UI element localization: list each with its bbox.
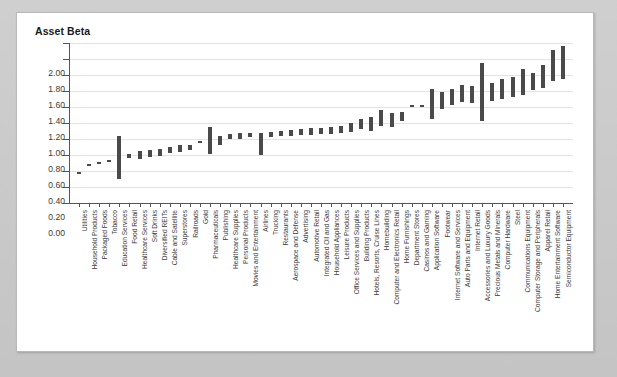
range-bar[interactable]: [248, 133, 252, 138]
x-axis-tick: [523, 203, 524, 207]
y-axis-tick-label: 1.60: [21, 100, 65, 110]
x-axis-tick-label: Application Software: [434, 210, 441, 270]
gridline: [69, 171, 573, 172]
y-axis-tick-label: 1.20: [21, 132, 65, 142]
range-bar[interactable]: [138, 151, 142, 159]
x-axis-tick: [180, 203, 181, 207]
x-axis-tick: [160, 203, 161, 207]
x-axis-tick: [392, 203, 393, 207]
x-axis-tick-label: Semiconductor Equipment: [566, 210, 573, 287]
range-bar[interactable]: [480, 63, 484, 121]
range-bar[interactable]: [531, 73, 535, 91]
range-bar[interactable]: [238, 133, 242, 139]
range-bar[interactable]: [107, 160, 111, 162]
x-axis-tick-label: Gold: [203, 210, 210, 224]
range-bar[interactable]: [400, 112, 404, 122]
range-bar[interactable]: [188, 145, 192, 151]
range-bar[interactable]: [541, 65, 545, 87]
range-bar[interactable]: [178, 145, 182, 151]
x-axis-tick: [321, 203, 322, 207]
x-axis-tick: [190, 203, 191, 207]
x-axis-tick-label: Department Stores: [414, 210, 421, 265]
gridline: [69, 107, 573, 108]
x-axis-tick-label: Food Retail: [132, 210, 139, 244]
x-axis-tick: [462, 203, 463, 207]
range-bar[interactable]: [168, 147, 172, 153]
x-axis-tick-label: Packaged Foods: [102, 210, 109, 260]
range-bar[interactable]: [289, 130, 293, 136]
y-axis-labels: 2.001.801.601.401.201.000.800.600.400.20…: [17, 43, 65, 204]
x-axis-tick: [311, 203, 312, 207]
range-bar[interactable]: [490, 83, 494, 101]
range-bar[interactable]: [410, 105, 414, 107]
x-axis-tick: [200, 203, 201, 207]
range-bar[interactable]: [228, 134, 232, 139]
range-bar[interactable]: [500, 79, 504, 99]
range-bar[interactable]: [450, 89, 454, 105]
x-axis-tick-label: Auto Parts and Equipment: [465, 210, 472, 287]
x-axis-tick-label: Hotels, Resorts, Cruise Lines: [374, 210, 381, 295]
y-axis-tick-label: 0.20: [21, 212, 65, 222]
x-axis-tick-label: Personal Products: [243, 210, 250, 264]
gridline: [69, 155, 573, 156]
range-bar[interactable]: [430, 89, 434, 119]
x-axis-tick-label: Publishing: [223, 210, 230, 240]
y-axis-tick-label: 1.80: [21, 84, 65, 94]
range-bar[interactable]: [379, 110, 383, 126]
range-bar[interactable]: [319, 128, 323, 134]
range-bar[interactable]: [117, 136, 121, 179]
x-axis-tick: [281, 203, 282, 207]
x-axis-tick-label: Internet Retail: [475, 210, 482, 251]
x-axis-tick-label: Automotive Retail: [314, 210, 321, 262]
range-bar[interactable]: [470, 86, 474, 103]
x-axis-tick: [553, 203, 554, 207]
x-axis-tick-label: Computer Hardware: [505, 210, 512, 269]
x-axis-tick: [412, 203, 413, 207]
x-axis-tick-label: Utilities: [82, 210, 89, 231]
range-bar[interactable]: [269, 132, 273, 138]
x-axis-tick-label: Accessories and Luxury Goods: [485, 210, 492, 301]
y-axis-tick-label: 0.60: [21, 180, 65, 190]
range-bar[interactable]: [208, 127, 212, 154]
x-axis-tick-label: Computer Storage and Peripherals: [535, 210, 542, 312]
x-axis-tick: [502, 203, 503, 207]
range-bar[interactable]: [460, 85, 464, 102]
range-bar[interactable]: [299, 129, 303, 135]
range-bar[interactable]: [551, 50, 555, 80]
range-bar[interactable]: [390, 113, 394, 127]
range-bar[interactable]: [349, 123, 353, 132]
range-bar[interactable]: [561, 46, 565, 79]
x-axis-tick: [99, 203, 100, 207]
range-bar[interactable]: [259, 133, 263, 155]
x-axis-tick: [472, 203, 473, 207]
range-bar[interactable]: [440, 92, 444, 109]
x-axis-tick-label: Footwear: [445, 210, 452, 238]
range-bar[interactable]: [309, 128, 313, 135]
x-axis-tick-label: Restaurants: [283, 210, 290, 246]
range-bar[interactable]: [369, 117, 373, 131]
range-bar[interactable]: [127, 154, 131, 158]
x-axis-tick-label: Cable and Satellite: [172, 210, 179, 265]
range-bar[interactable]: [521, 69, 525, 95]
range-bar[interactable]: [148, 150, 152, 157]
range-bar[interactable]: [279, 131, 283, 136]
range-bar[interactable]: [329, 127, 333, 134]
x-axis-tick-label: Healthcare Supplies: [233, 210, 240, 269]
x-axis-tick-label: Aerospace and Defense: [293, 210, 300, 281]
range-bar[interactable]: [511, 77, 515, 97]
range-bar[interactable]: [359, 119, 363, 129]
y-axis-tick-label: 0.00: [21, 228, 65, 238]
range-bar[interactable]: [158, 149, 162, 156]
range-bar[interactable]: [77, 172, 81, 174]
range-bar[interactable]: [198, 141, 202, 143]
range-bar[interactable]: [87, 164, 91, 166]
range-bar[interactable]: [97, 162, 101, 164]
x-axis-tick: [482, 203, 483, 207]
range-bar[interactable]: [420, 105, 424, 107]
range-bar[interactable]: [218, 136, 222, 145]
gridline: [69, 75, 573, 76]
x-axis-tick-label: Casinos and Gaming: [424, 210, 431, 272]
page-background: Asset Beta 2.001.801.601.401.201.000.800…: [0, 0, 617, 377]
range-bar[interactable]: [339, 126, 343, 133]
x-axis-tick-label: Airlines: [263, 210, 270, 232]
